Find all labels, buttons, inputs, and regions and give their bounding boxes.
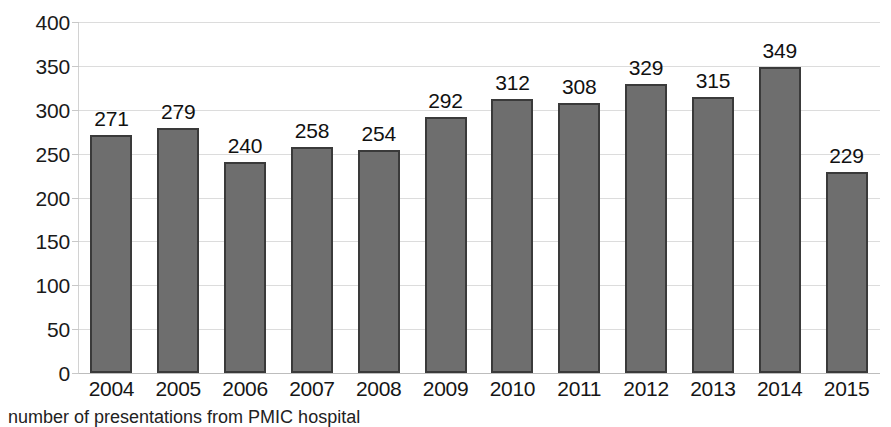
bar (425, 117, 467, 373)
bar-value-label: 292 (428, 90, 462, 111)
x-axis-tick-label: 2012 (623, 378, 669, 399)
bar-group: 329 (613, 22, 680, 373)
bar (759, 67, 801, 373)
bar (826, 172, 868, 373)
plot-area: 271279240258254292312308329315349229 (78, 22, 880, 373)
y-axis: 050100150200250300350400 (0, 0, 70, 427)
y-axis-tick-label: 350 (4, 55, 70, 76)
bar-value-label: 240 (228, 135, 262, 156)
bar (224, 162, 266, 373)
y-axis-tick-label: 150 (4, 231, 70, 252)
bar-group: 240 (212, 22, 279, 373)
chart-caption: number of presentations from PMIC hospit… (8, 408, 888, 427)
bar-chart: 050100150200250300350400 271279240258254… (0, 0, 891, 427)
y-axis-tickmark (72, 329, 79, 330)
y-axis-tickmark (72, 373, 79, 374)
bar-group: 254 (345, 22, 412, 373)
y-axis-tick-label: 250 (4, 143, 70, 164)
x-axis-tick-label: 2011 (557, 378, 601, 399)
y-axis-tick-label: 200 (4, 187, 70, 208)
bar (157, 128, 199, 373)
bar-value-label: 271 (94, 108, 128, 129)
bar-group: 279 (145, 22, 212, 373)
bar-value-label: 315 (696, 70, 730, 91)
x-axis-baseline (78, 373, 880, 374)
x-axis-tick-label: 2006 (222, 378, 268, 399)
x-axis-tick-label: 2008 (356, 378, 402, 399)
bar (291, 147, 333, 373)
y-axis-tick-label: 100 (4, 275, 70, 296)
bar-value-label: 308 (562, 76, 596, 97)
bar-group: 349 (746, 22, 813, 373)
bar-group: 258 (279, 22, 346, 373)
bar-value-label: 258 (295, 120, 329, 141)
x-axis: 2004200520062007200820092010201120122013… (78, 378, 880, 404)
x-axis-tick-label: 2009 (423, 378, 469, 399)
y-axis-tick-label: 300 (4, 99, 70, 120)
x-axis-tick-label: 2007 (289, 378, 335, 399)
bar-value-label: 229 (829, 145, 863, 166)
bar (558, 103, 600, 373)
y-axis-tick-label: 400 (4, 12, 70, 33)
bar-group: 312 (479, 22, 546, 373)
x-axis-tick-label: 2010 (490, 378, 536, 399)
y-axis-tick-label: 0 (4, 363, 70, 384)
y-axis-tickmark (72, 285, 79, 286)
bar-value-label: 349 (763, 40, 797, 61)
y-axis-tickmark (72, 110, 79, 111)
bar-value-label: 329 (629, 57, 663, 78)
bar-value-label: 254 (362, 123, 396, 144)
bar-group: 271 (78, 22, 145, 373)
y-axis-tick-label: 50 (4, 319, 70, 340)
bar-group: 229 (813, 22, 880, 373)
x-axis-tick-label: 2014 (757, 378, 803, 399)
y-axis-tickmark (72, 241, 79, 242)
y-axis-tickmark (72, 22, 79, 23)
bar (358, 150, 400, 373)
bar-group: 292 (412, 22, 479, 373)
bar-value-label: 312 (495, 72, 529, 93)
x-axis-tick-label: 2004 (89, 378, 135, 399)
x-axis-tick-label: 2015 (824, 378, 870, 399)
y-axis-tickmark (72, 198, 79, 199)
bar (692, 97, 734, 373)
y-axis-tickmark (72, 154, 79, 155)
bar (491, 99, 533, 373)
y-axis-tickmark (72, 66, 79, 67)
bar-value-label: 279 (161, 101, 195, 122)
x-axis-tick-label: 2013 (690, 378, 736, 399)
bar (90, 135, 132, 373)
bar-group: 315 (680, 22, 747, 373)
bar (625, 84, 667, 373)
x-axis-tick-label: 2005 (155, 378, 201, 399)
bar-group: 308 (546, 22, 613, 373)
